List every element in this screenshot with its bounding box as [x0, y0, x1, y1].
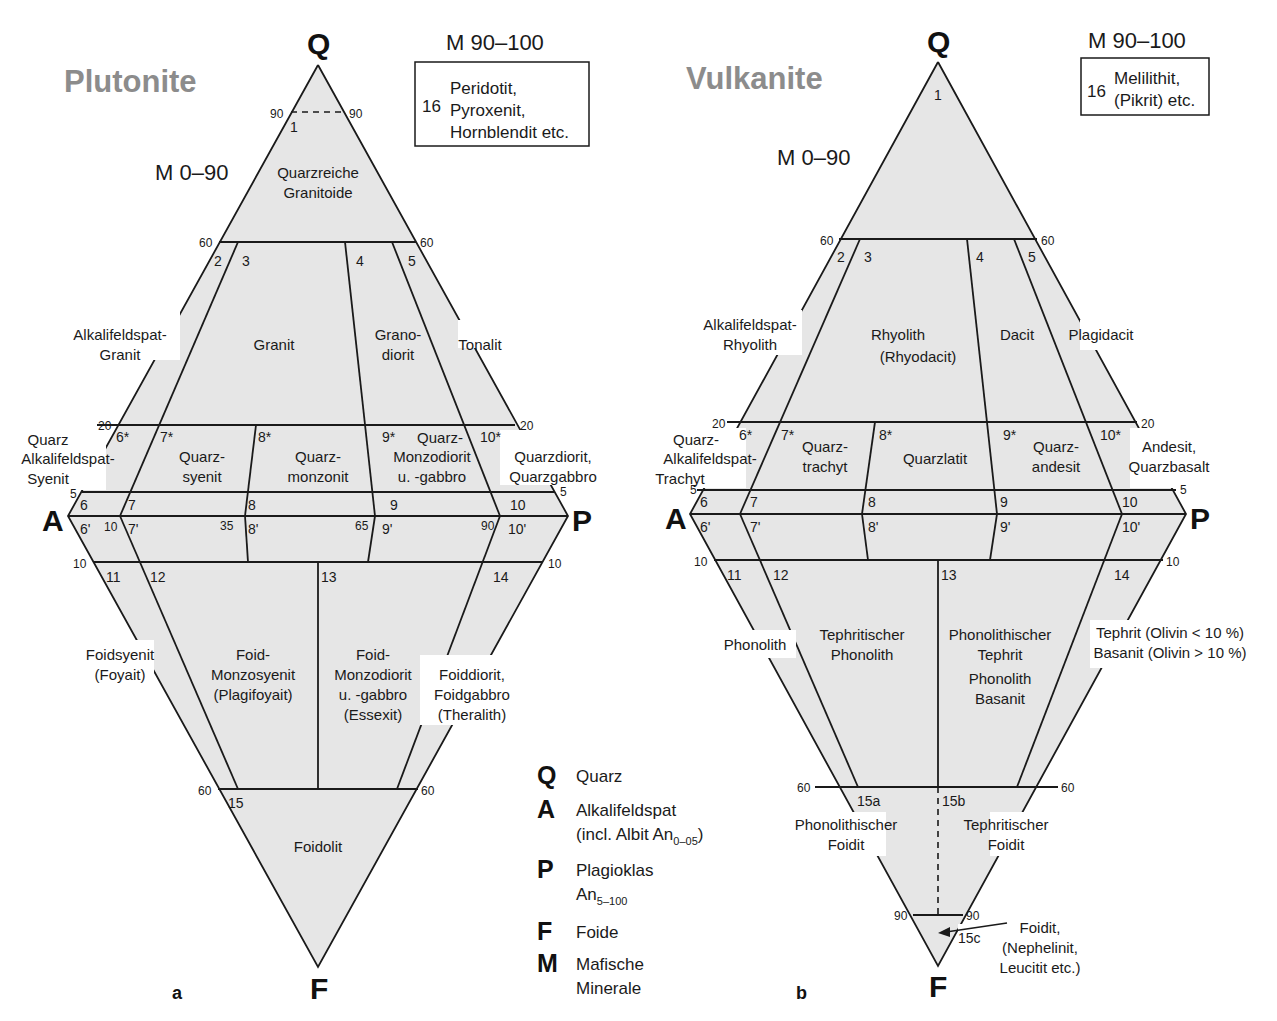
field-name: syenit [182, 468, 222, 485]
field-16-number: 16 [1087, 82, 1106, 101]
tick-q20-right: 20 [1141, 417, 1155, 431]
field-name: Granit [254, 336, 296, 353]
field-number: 8* [258, 429, 272, 445]
field-number: 8 [868, 494, 876, 510]
field-name: Foid- [356, 646, 390, 663]
tick-f60-left: 60 [198, 784, 212, 798]
field-name: Foid- [236, 646, 270, 663]
field-number: 9* [382, 429, 396, 445]
tick-q20-left: 20 [98, 419, 112, 433]
field-name: Quarz- [1033, 438, 1079, 455]
field-name: Phonolith [831, 646, 894, 663]
vertex-p: P [572, 504, 592, 537]
tick-q5-right: 5 [1180, 483, 1187, 497]
field-number: 15b [942, 793, 966, 809]
field-name: Phonolith [724, 636, 787, 653]
vertex-q: Q [307, 27, 330, 60]
field-number: 6* [739, 427, 753, 443]
vertex-f: F [929, 970, 947, 1003]
tick-f60-right: 60 [421, 784, 435, 798]
field-name: Trachyt [655, 470, 705, 487]
field-number: 8* [879, 427, 893, 443]
vertex-p: P [1190, 502, 1210, 535]
tick-ap-65: 65 [355, 519, 369, 533]
legend-text-a2: (incl. Albit An0–05) [576, 825, 703, 847]
qapf-figure: Plutonite Q A P F a M 0–90 M 90–100 16 P… [0, 0, 1277, 1021]
field-name: Rhyolith [723, 336, 777, 353]
field-name: trachyt [802, 458, 848, 475]
field-number: 9' [1000, 519, 1010, 535]
field-16-line2: (Pikrit) etc. [1114, 91, 1195, 110]
field-number: 10 [510, 497, 526, 513]
field-name: Rhyolith [871, 326, 925, 343]
vertex-q: Q [927, 25, 950, 58]
field-16-line1: Melilithit, [1114, 69, 1180, 88]
tick-f10-left: 10 [694, 555, 708, 569]
field-name: u. -gabbro [339, 686, 407, 703]
field-name: Foidolit [294, 838, 343, 855]
field-name: Phonolithischer [795, 816, 898, 833]
field-name: (Rhyodacit) [880, 348, 957, 365]
vulkanite-diagram: Vulkanite Q A P F b M 0–90 M 90–100 16 M… [655, 25, 1250, 1003]
tick-f10-right: 10 [1166, 555, 1180, 569]
field-number: 11 [106, 569, 121, 585]
legend-text-p2: An5–100 [576, 885, 627, 907]
field-name: Basanit (Olivin > 10 %) [1094, 644, 1247, 661]
field-name: Andesit, [1142, 438, 1196, 455]
field-name: Monzodiorit [393, 448, 471, 465]
field-name: Quarz- [179, 448, 225, 465]
field-name: Quarzgabbro [509, 468, 597, 485]
field-number: 10 [1122, 494, 1138, 510]
field-name: Tephritischer [963, 816, 1048, 833]
field-number: 8' [248, 521, 258, 537]
field-name: Granit [100, 346, 142, 363]
field-number: 6' [80, 521, 90, 537]
field-number: 9* [1003, 427, 1017, 443]
field-number: 15c [958, 930, 981, 946]
field-name: Phonolith [969, 670, 1032, 687]
field-16-number: 16 [422, 97, 441, 116]
field-name: (Theralith) [438, 706, 506, 723]
field-number: 4 [356, 253, 364, 269]
field-name: Basanit [975, 690, 1026, 707]
field-name: Tephritischer [819, 626, 904, 643]
field-name: Grano- [375, 326, 422, 343]
field-number: 11 [727, 567, 742, 583]
legend-key-p: P [537, 855, 554, 883]
plutonite-diagram: Plutonite Q A P F a M 0–90 M 90–100 16 P… [21, 27, 596, 1005]
field-number: 9 [1000, 494, 1008, 510]
field-number: 7* [160, 429, 174, 445]
field-name: Alkalifeldspat- [703, 316, 796, 333]
field-name: Quarzdiorit, [514, 448, 592, 465]
legend-text-m2: Minerale [576, 979, 641, 998]
m-range-main: M 0–90 [777, 145, 850, 170]
field-name: Quarz- [673, 431, 719, 448]
field-name: (Essexit) [344, 706, 402, 723]
field-16-line2: Pyroxenit, [450, 101, 526, 120]
field-number: 15 [228, 795, 244, 811]
field-name: Foiddiorit, [439, 666, 505, 683]
tick-f10-right: 10 [548, 557, 562, 571]
tick-ap-90: 90 [481, 519, 495, 533]
m-range-box: M 90–100 [446, 30, 544, 55]
field-number: 3 [242, 253, 250, 269]
field-number: 10* [480, 429, 502, 445]
legend-key-a: A [537, 795, 555, 823]
field-number: 10' [1122, 519, 1140, 535]
field-name: Foidgabbro [434, 686, 510, 703]
legend-text-f: Foide [576, 923, 619, 942]
tick-q60-left: 60 [820, 234, 834, 248]
tick-f60-left: 60 [797, 781, 811, 795]
field-number: 5 [1028, 249, 1036, 265]
field-number: 15a [857, 793, 881, 809]
field-name: u. -gabbro [398, 468, 466, 485]
field-name: Syenit [27, 470, 70, 487]
field-number: 2 [837, 249, 845, 265]
field-name: Quarzbasalt [1129, 458, 1211, 475]
field-name: Phonolithischer [949, 626, 1052, 643]
field-number: 7* [781, 427, 795, 443]
field-name: Foidit, [1020, 919, 1061, 936]
field-name: Quarzreiche [277, 164, 359, 181]
legend-key-f: F [537, 917, 552, 945]
field-number: 1 [290, 119, 298, 135]
